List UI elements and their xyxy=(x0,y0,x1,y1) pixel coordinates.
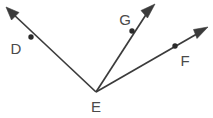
point-g-dot xyxy=(129,28,134,33)
point-d-dot xyxy=(28,34,33,39)
ray-eg-arrowhead xyxy=(141,4,155,18)
ray-ed: D xyxy=(6,7,96,92)
geometry-canvas: D G F E xyxy=(0,0,213,118)
ray-ef: F xyxy=(96,27,208,92)
point-f-label: F xyxy=(180,52,189,69)
ray-ed-line xyxy=(12,13,96,92)
geometry-diagram: D G F E xyxy=(0,0,213,118)
ray-eg: G xyxy=(96,4,155,92)
point-e-label: E xyxy=(91,98,101,115)
point-f-dot xyxy=(172,43,177,48)
ray-ef-arrowhead xyxy=(194,27,209,39)
point-g-label: G xyxy=(119,11,131,28)
point-d-label: D xyxy=(11,40,22,57)
